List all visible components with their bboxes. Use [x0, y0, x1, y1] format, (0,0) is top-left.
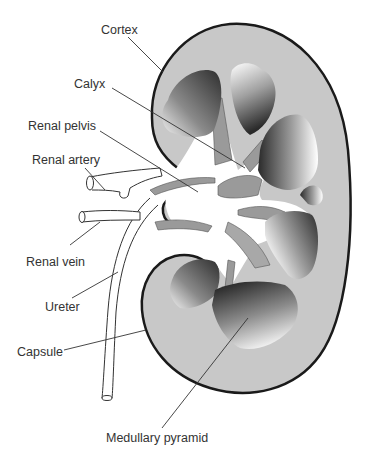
- label-renal-vein: Renal vein: [26, 255, 85, 269]
- renal-artery: [90, 168, 162, 198]
- renal-artery-end: [87, 176, 94, 190]
- label-ureter: Ureter: [45, 300, 80, 314]
- kidney-diagram: [0, 0, 365, 468]
- label-renal-pelvis: Renal pelvis: [28, 119, 96, 133]
- label-capsule: Capsule: [17, 345, 63, 359]
- renal-vein-end: [79, 212, 85, 223]
- leader-renal-vein: [70, 222, 100, 245]
- renal-vein: [82, 211, 140, 223]
- label-renal-artery: Renal artery: [32, 153, 100, 167]
- label-cortex: Cortex: [101, 23, 138, 37]
- leader-cortex: [128, 37, 163, 72]
- ureter-end: [102, 396, 112, 401]
- label-medullary-pyramid: Medullary pyramid: [106, 431, 208, 445]
- label-calyx: Calyx: [74, 77, 105, 91]
